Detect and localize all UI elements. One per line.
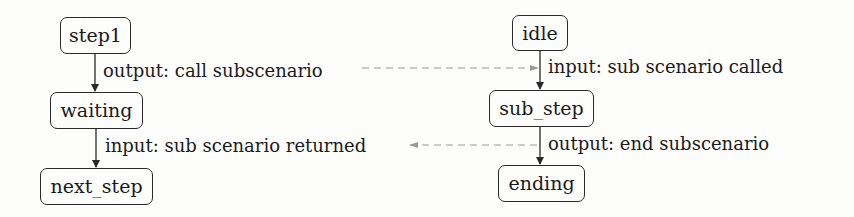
node-label: step1 (69, 26, 122, 45)
state-node-idle: idle (512, 15, 568, 51)
state-node-sub-step: sub_step (489, 90, 594, 127)
transition-label-sub-scenario-returned: input: sub scenario returned (105, 137, 366, 155)
transition-label-end-subscenario: output: end subscenario (548, 135, 769, 153)
state-node-step1: step1 (60, 17, 131, 54)
transition-label-sub-scenario-called: input: sub scenario called (548, 58, 783, 76)
state-node-ending: ending (498, 165, 585, 202)
state-node-next-step: next_step (40, 168, 153, 205)
node-label: ending (508, 174, 574, 193)
node-label: sub_step (499, 99, 583, 118)
transition-label-call-subscenario: output: call subscenario (103, 62, 323, 80)
node-label: waiting (61, 101, 133, 120)
state-node-waiting: waiting (50, 92, 143, 129)
node-label: idle (522, 24, 558, 43)
node-label: next_step (50, 177, 142, 196)
